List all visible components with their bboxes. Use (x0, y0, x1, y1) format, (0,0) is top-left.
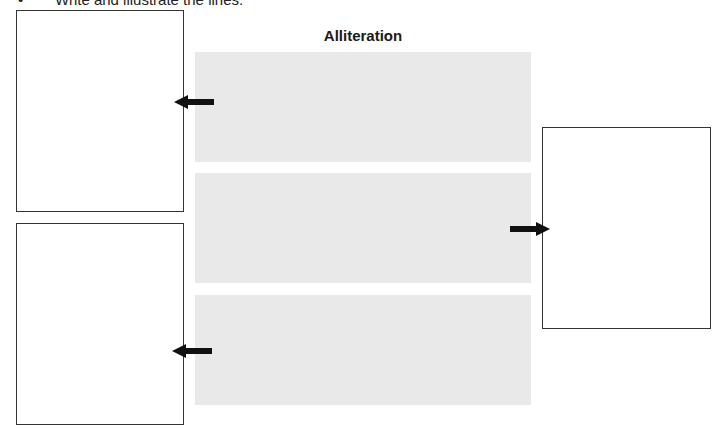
worksheet-title: Alliteration (195, 27, 531, 44)
arrow-left-icon (174, 94, 214, 110)
writing-line-box-1[interactable] (195, 52, 531, 162)
instruction-text: Write and illustrate the lines. (55, 0, 243, 8)
illustration-frame-left-bottom[interactable] (16, 223, 184, 425)
arrow-left-icon (172, 343, 212, 359)
instruction-bullet: • (18, 0, 23, 8)
arrow-right-icon (510, 221, 550, 237)
illustration-frame-left-top[interactable] (16, 10, 184, 212)
illustration-frame-right[interactable] (542, 127, 711, 329)
writing-line-box-2[interactable] (195, 173, 531, 283)
writing-line-box-3[interactable] (195, 295, 531, 405)
